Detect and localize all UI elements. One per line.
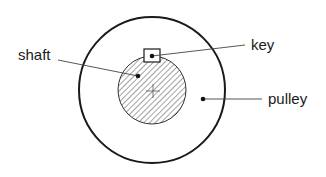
shaft-circle [118, 56, 186, 124]
shaft-label: shaft [18, 46, 51, 63]
shaft-pulley-diagram: shaft key pulley [0, 0, 326, 177]
pulley-label: pulley [268, 90, 308, 107]
key-leader-dot [150, 54, 155, 59]
key-label: key [251, 36, 275, 53]
shaft-leader-dot [136, 74, 141, 79]
pulley-leader-dot [201, 97, 206, 102]
key-leader-line [152, 45, 245, 56]
